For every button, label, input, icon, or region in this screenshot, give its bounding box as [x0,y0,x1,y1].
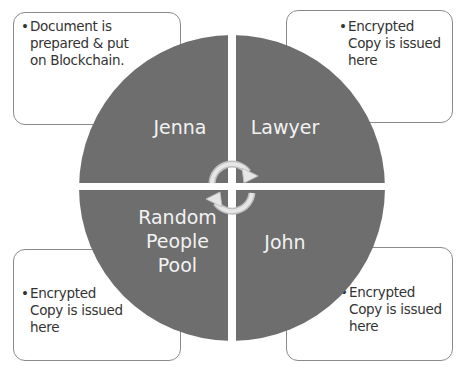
quadrant-top-right [236,30,396,183]
quadrant-label-jenna: Jenna [130,115,230,139]
quadrant-label-john: John [235,230,335,254]
quadrant-label-lawyer: Lawyer [235,115,335,139]
quadrant-bottom-right [236,190,396,350]
quadrant-circle [0,0,463,375]
quadrant-top-left [70,30,228,183]
quadrant-label-random-people-pool: Random People Pool [125,205,230,277]
